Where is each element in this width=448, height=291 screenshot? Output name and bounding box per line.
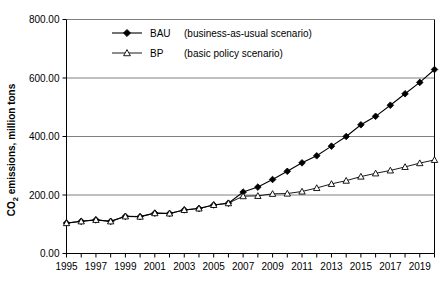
x-tick-label-2013: 2013 [320,261,343,272]
x-tick-label-2011: 2011 [291,261,313,272]
x-tick-label-2019: 2019 [409,261,432,272]
x-tick-label-1999: 1999 [114,261,137,272]
y-axis-title-text: CO2 emissions, million tons [6,83,20,216]
x-tick-label-2017: 2017 [379,261,402,272]
x-tick-label-2003: 2003 [173,261,196,272]
x-tick-label-2005: 2005 [203,261,226,272]
x-tick-label-2015: 2015 [350,261,373,272]
x-tick-label-1995: 1995 [55,261,78,272]
legend-label-bp: BP [150,48,164,59]
x-tick-label-2007: 2007 [232,261,255,272]
legend-note-bau: (business-as-usual scenario) [184,28,312,39]
x-tick-label-1997: 1997 [85,261,108,272]
chart-canvas: 0.00200.00400.00600.00800.00199519971999… [0,0,448,291]
y-tick-label-200: 200.00 [29,190,60,201]
legend-label-bau: BAU [150,28,171,39]
legend-note-bp: (basic policy scenario) [184,48,283,59]
co2-emissions-chart: 0.00200.00400.00600.00800.00199519971999… [0,0,448,291]
y-tick-label-0: 0.00 [40,248,60,259]
x-tick-label-2001: 2001 [144,261,167,272]
y-axis-title: CO2 emissions, million tons [6,83,20,216]
y-tick-label-600: 600.00 [29,73,60,84]
x-tick-label-2009: 2009 [261,261,284,272]
y-tick-label-400: 400.00 [29,131,60,142]
y-tick-label-800: 800.00 [29,14,60,25]
